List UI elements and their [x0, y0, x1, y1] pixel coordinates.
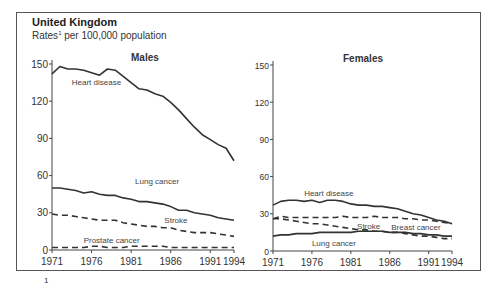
series-prostate-cancer: [52, 246, 234, 247]
y-tick-label: 0: [42, 245, 48, 256]
x-tick-label: 1991: [418, 257, 441, 268]
series-stroke: [52, 214, 234, 236]
y-tick-label: 120: [255, 98, 269, 108]
x-tick-label: 1994: [223, 256, 246, 267]
series-label: Breast cancer: [391, 223, 441, 232]
chart-plots: 0306090120150197119761981198619911994Hea…: [0, 0, 496, 288]
y-tick-label: 90: [260, 135, 270, 145]
series-lung-cancer: [52, 188, 234, 220]
series-label: Lung cancer: [135, 177, 179, 186]
series-label: Lung cancer: [312, 239, 356, 248]
x-tick-label: 1981: [340, 257, 363, 268]
y-tick-label: 90: [37, 133, 49, 144]
y-tick-label: 120: [31, 96, 48, 107]
y-tick-label: 60: [37, 170, 49, 181]
x-tick-label: 1986: [160, 256, 183, 267]
x-tick-label: 1971: [41, 256, 64, 267]
y-tick-label: 0: [264, 247, 269, 257]
x-tick-label: 1994: [441, 257, 464, 268]
x-tick-label: 1986: [379, 257, 402, 268]
series-label: Heart disease: [72, 78, 122, 87]
y-tick-label: 30: [260, 209, 270, 219]
series-label: Stroke: [164, 216, 188, 225]
series-label: Prostate cancer: [84, 236, 140, 245]
y-tick-label: 60: [260, 172, 270, 182]
y-tick-label: 150: [255, 61, 269, 71]
females-chart: 0306090120150197119761981198619911994Hea…: [255, 61, 464, 269]
y-tick-label: 150: [31, 59, 48, 70]
series-label: Stroke: [357, 222, 381, 231]
series-label: Heart disease: [304, 189, 354, 198]
x-tick-label: 1981: [120, 256, 143, 267]
x-tick-label: 1976: [80, 256, 103, 267]
males-chart: 0306090120150197119761981198619911994Hea…: [31, 59, 245, 268]
x-tick-label: 1991: [199, 256, 222, 267]
y-tick-label: 30: [37, 207, 49, 218]
x-tick-label: 1976: [301, 257, 324, 268]
x-tick-label: 1971: [262, 257, 285, 268]
